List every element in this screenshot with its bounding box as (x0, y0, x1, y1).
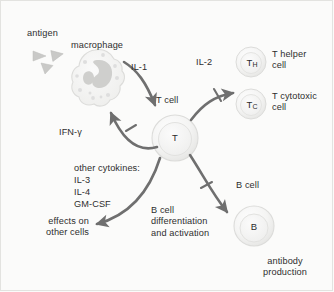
t-cell-glyph: T (167, 132, 183, 143)
antigen-label: antigen (27, 28, 58, 39)
t-cytotoxic-cell-label: T cytotoxic cell (272, 91, 317, 114)
macrophage-label: macrophage (71, 40, 123, 51)
ifn-gamma-label: IFN-γ (59, 127, 82, 138)
cytokine-gm-csf: GM-CSF (74, 199, 111, 210)
effects-on-other-cells-label: effects on other cells (14, 216, 89, 239)
il2-label: IL-2 (196, 57, 212, 68)
t-helper-glyph-sub: H (252, 61, 257, 68)
cytokine-il4: IL-4 (74, 187, 90, 198)
cytokine-il3: IL-3 (74, 175, 90, 186)
b-cell-glyph: B (246, 221, 262, 232)
diagram-vector-layer (0, 0, 334, 292)
il1-label: IL-1 (131, 62, 147, 73)
b-cell-differentiation-label: B cell differentiation and activation (151, 205, 209, 239)
arrow-ifn-gamma (111, 113, 157, 148)
t-cell-label: T cell (156, 95, 178, 106)
antibody-production-label: antibody production (246, 256, 324, 279)
other-cytokines-header: other cytokines: (74, 163, 140, 174)
macrophage-cell (72, 50, 125, 107)
arrow-ifn-gamma-tick (126, 125, 136, 131)
t-helper-glyph: TH (242, 57, 262, 68)
b-cell-label: B cell (236, 180, 259, 191)
antigen-particles (33, 48, 64, 74)
t-cytotoxic-glyph: TC (242, 99, 262, 110)
t-helper-cell-label: T helper cell (272, 49, 306, 72)
arrow-il2 (191, 93, 233, 120)
immune-response-diagram: antigen macrophage IL-1 IL-2 IFN-γ T cel… (0, 0, 334, 292)
t-cytotoxic-glyph-sub: C (252, 103, 257, 110)
